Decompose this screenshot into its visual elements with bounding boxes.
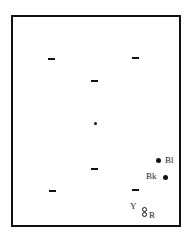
dash-marker-2 [132,57,139,59]
black-point [163,175,168,180]
dash-marker-1 [48,58,55,60]
dash-marker-3 [91,80,98,82]
dash-marker-5 [49,190,56,192]
red-point [142,212,147,217]
dash-marker-4 [91,168,98,170]
dash-marker-6 [132,189,139,191]
red-label: R [149,211,155,220]
board-frame [11,15,181,227]
blue-label: Bl [165,156,174,165]
yellow-label: Y [130,202,137,211]
center-dot [94,122,97,125]
blue-point [156,158,161,163]
black-label: Bk [146,172,157,181]
